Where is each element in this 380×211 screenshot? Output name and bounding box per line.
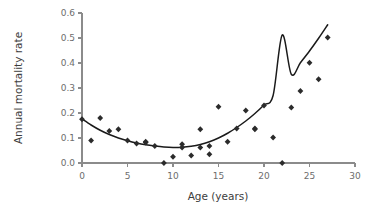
- data-point: [288, 105, 294, 111]
- data-point: [188, 153, 194, 159]
- y-axis-title-group: Annual mortality rate: [12, 32, 24, 144]
- data-point: [152, 143, 158, 149]
- x-axis-title: Age (years): [188, 190, 249, 202]
- data-point: [252, 126, 258, 132]
- data-point: [216, 104, 222, 110]
- data-point: [307, 60, 313, 66]
- data-point-group: [79, 35, 331, 166]
- y-tick-label: 0.3: [61, 83, 75, 93]
- y-tick-label: 0.1: [61, 133, 75, 143]
- y-tick-label: 0.4: [61, 58, 76, 68]
- y-tick-label: 0.6: [61, 8, 76, 18]
- data-point: [161, 160, 167, 166]
- data-point: [243, 108, 249, 114]
- y-axis-title: Annual mortality rate: [12, 32, 24, 144]
- y-tick-label: 0.0: [61, 158, 76, 168]
- data-point: [207, 143, 213, 149]
- mortality-rate-scatter-chart: Annual mortality rate 0.00.10.20.30.40.5…: [0, 0, 380, 211]
- data-point: [207, 151, 213, 157]
- x-tick-label: 0: [79, 171, 85, 181]
- y-tick-label: 0.2: [61, 108, 75, 118]
- data-point: [97, 115, 103, 121]
- x-axis-ticks: 051015202530: [79, 163, 361, 181]
- data-point: [134, 141, 140, 147]
- data-point: [325, 35, 331, 41]
- data-point: [179, 145, 185, 151]
- x-tick-label: 5: [125, 171, 131, 181]
- data-point: [170, 154, 176, 160]
- data-point: [279, 160, 285, 166]
- data-point: [270, 135, 276, 141]
- x-axis: 051015202530 Age (years): [79, 163, 361, 202]
- data-point: [116, 126, 122, 132]
- y-axis: 0.00.10.20.30.40.50.6: [61, 8, 82, 168]
- data-point: [316, 76, 322, 82]
- x-tick-label: 10: [167, 171, 179, 181]
- chart-container: Annual mortality rate 0.00.10.20.30.40.5…: [0, 0, 380, 211]
- data-point: [197, 126, 203, 132]
- data-point: [298, 88, 304, 94]
- x-tick-label: 15: [213, 171, 224, 181]
- data-point: [125, 138, 131, 144]
- y-tick-label: 0.5: [61, 33, 75, 43]
- y-axis-ticks: 0.00.10.20.30.40.50.6: [61, 8, 82, 168]
- data-point: [88, 138, 94, 144]
- data-point: [225, 139, 231, 145]
- data-point: [79, 116, 85, 122]
- x-tick-label: 25: [304, 171, 315, 181]
- x-tick-label: 20: [258, 171, 270, 181]
- x-tick-label: 30: [349, 171, 361, 181]
